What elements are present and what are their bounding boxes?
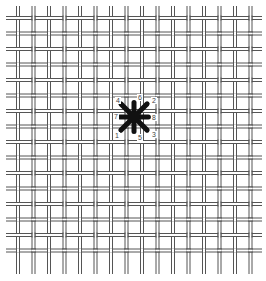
stitch-label-top-right: 2 — [151, 97, 157, 104]
stitch-label-bottom-right: 3 — [151, 131, 157, 138]
stitch-label-top: 6 — [137, 94, 143, 101]
stitch-label-bottom: 5 — [137, 134, 143, 141]
star-stitch-icon — [120, 103, 149, 132]
stitch-label-top-left: 4 — [115, 97, 121, 104]
stitch-label-right: 8 — [151, 114, 157, 121]
canvas-mesh-diagram — [0, 0, 266, 281]
canvas-threads — [6, 6, 262, 274]
stitch-label-left: 7 — [113, 113, 119, 120]
stitch-label-bottom-left: 1 — [114, 132, 120, 139]
